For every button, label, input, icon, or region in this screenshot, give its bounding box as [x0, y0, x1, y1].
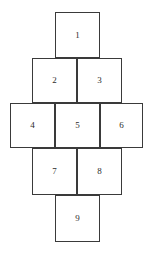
square-cell-5: 5	[55, 103, 100, 148]
square-cell-2: 2	[32, 58, 77, 103]
square-label-6: 6	[119, 121, 124, 130]
square-label-7: 7	[52, 167, 57, 176]
square-label-9: 9	[75, 214, 80, 223]
square-label-8: 8	[97, 167, 102, 176]
square-label-5: 5	[75, 121, 80, 130]
square-label-3: 3	[97, 76, 102, 85]
square-cell-6: 6	[100, 103, 143, 148]
square-cell-8: 8	[77, 148, 122, 195]
square-label-2: 2	[52, 76, 57, 85]
square-cell-4: 4	[10, 103, 55, 148]
square-label-1: 1	[75, 31, 80, 40]
square-cell-1: 1	[55, 12, 100, 58]
square-net-diagram: 1 2 3 4 5 6 7 8 9	[0, 0, 153, 254]
square-cell-7: 7	[32, 148, 77, 195]
square-cell-9: 9	[55, 195, 100, 242]
square-cell-3: 3	[77, 58, 122, 103]
square-label-4: 4	[30, 121, 35, 130]
